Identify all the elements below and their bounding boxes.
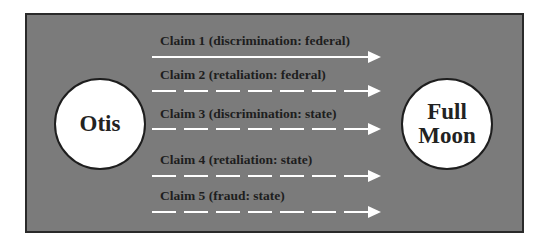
full-moon-label-line2: Moon [418, 123, 476, 148]
otis-node: Otis [54, 78, 146, 170]
full-moon-label: Full Moon [418, 100, 476, 148]
claim-1-label: Claim 1 (discrimination: federal) [160, 33, 350, 49]
claim-3-label: Claim 3 (discrimination: state) [160, 106, 337, 122]
claim-5-label: Claim 5 (fraud: state) [160, 188, 285, 204]
claim-3-arrowhead-icon [368, 123, 381, 135]
claim-2-arrowhead-icon [368, 85, 381, 97]
claim-4-arrowhead-icon [368, 170, 381, 182]
claim-1-arrowhead-icon [368, 51, 381, 63]
full-moon-label-line1: Full [427, 99, 467, 124]
otis-label: Otis [80, 112, 121, 136]
claim-4-label: Claim 4 (retaliation: state) [160, 152, 312, 168]
claim-5-arrowhead-icon [368, 206, 381, 218]
claim-2-label: Claim 2 (retaliation: federal) [160, 67, 326, 83]
full-moon-node: Full Moon [401, 78, 493, 170]
